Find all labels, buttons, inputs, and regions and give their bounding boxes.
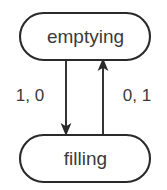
state-node-filling[interactable]: filling [20,135,150,182]
transition-filling-to-emptying[interactable]: 0, 1 [98,58,152,135]
transition-emptying-to-filling[interactable]: 1, 0 [16,60,72,136]
state-node-emptying-label: emptying [47,26,124,47]
state-transition-diagram: 1, 0 0, 1 emptying filling [0,0,167,190]
state-node-emptying[interactable]: emptying [20,13,150,60]
transition-label-filling-to-emptying: 0, 1 [123,86,151,105]
state-node-filling-label: filling [64,148,107,169]
diagram-canvas: 1, 0 0, 1 emptying filling [0,0,167,190]
transition-label-emptying-to-filling: 1, 0 [16,86,44,105]
